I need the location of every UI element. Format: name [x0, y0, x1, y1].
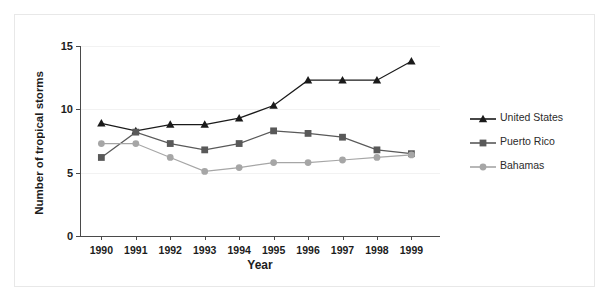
- data-point-square: [236, 140, 243, 147]
- legend-label: United States: [500, 111, 563, 123]
- legend-marker-circle-icon: [470, 159, 496, 171]
- series-line: [101, 131, 411, 158]
- series-line: [101, 61, 411, 131]
- series-layer: [80, 32, 440, 237]
- y-tick-label: 10: [61, 103, 73, 115]
- series-united-states: [97, 57, 415, 134]
- data-point-square: [132, 129, 139, 136]
- x-tick-label: 1998: [365, 244, 388, 256]
- plot-area: 051015 199019911992199319941995199619971…: [80, 32, 440, 236]
- data-point-circle: [480, 164, 487, 171]
- data-point-square: [480, 140, 487, 147]
- legend-marker-square-icon: [470, 135, 496, 147]
- data-point-circle: [305, 159, 312, 166]
- chart-figure: Number of tropical storms 051015 1990199…: [14, 14, 595, 287]
- legend-entry-united-states[interactable]: United States: [470, 105, 590, 129]
- chart-legend: United StatesPuerto RicoBahamas: [470, 105, 590, 177]
- x-tick-label: 1993: [193, 244, 216, 256]
- legend-label: Puerto Rico: [500, 135, 555, 147]
- y-axis-title-text: Number of tropical storms: [33, 71, 45, 215]
- data-point-circle: [236, 164, 243, 171]
- data-point-square: [167, 140, 174, 147]
- data-point-circle: [167, 154, 174, 161]
- series-bahamas: [98, 140, 415, 175]
- legend-entry-puerto-rico[interactable]: Puerto Rico: [470, 129, 590, 153]
- data-point-circle: [339, 157, 346, 164]
- data-point-square: [270, 127, 277, 134]
- data-point-circle: [374, 154, 381, 161]
- data-point-circle: [270, 159, 277, 166]
- x-tick-label: 1992: [159, 244, 182, 256]
- x-tick-label: 1995: [262, 244, 285, 256]
- legend-label: Bahamas: [500, 159, 544, 171]
- data-point-square: [305, 130, 312, 137]
- x-tick-label: 1996: [296, 244, 319, 256]
- data-point-triangle: [97, 119, 105, 126]
- legend-entry-bahamas[interactable]: Bahamas: [470, 153, 590, 177]
- data-point-square: [374, 146, 381, 153]
- series-puerto-rico: [98, 127, 415, 160]
- data-point-triangle: [407, 57, 415, 64]
- data-point-square: [201, 146, 208, 153]
- y-tick-label: 15: [61, 40, 73, 52]
- y-tick-label: 5: [67, 167, 73, 179]
- data-point-square: [98, 154, 105, 161]
- x-tick-label: 1999: [400, 244, 423, 256]
- data-point-circle: [98, 140, 105, 147]
- data-point-circle: [132, 140, 139, 147]
- data-point-square: [339, 134, 346, 141]
- x-tick-label: 1997: [331, 244, 354, 256]
- y-tick-label: 0: [67, 230, 73, 242]
- legend-marker-triangle-icon: [470, 111, 496, 123]
- y-axis-title: Number of tropical storms: [29, 53, 49, 233]
- x-tick-label: 1990: [90, 244, 113, 256]
- data-point-triangle: [269, 101, 277, 108]
- series-line: [101, 144, 411, 172]
- x-tick-label: 1991: [124, 244, 147, 256]
- x-axis-title: Year: [80, 258, 440, 272]
- x-tick-label: 1994: [227, 244, 250, 256]
- data-point-circle: [408, 152, 415, 159]
- data-point-circle: [201, 168, 208, 175]
